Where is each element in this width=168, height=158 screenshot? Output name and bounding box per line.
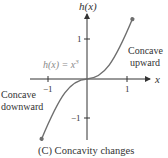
concavity-diagram: h(x) x 1 −1 −1 1 h(x) = x3 Concave upwar…: [0, 0, 168, 158]
concave-upward-line2: upward: [130, 57, 160, 68]
figure-caption: (C) Concavity changes: [38, 145, 134, 157]
y-tick-label-1: 1: [77, 34, 82, 44]
function-label: h(x) = x3: [43, 58, 79, 71]
y-axis-label: h(x): [79, 0, 97, 13]
y-tick-label-neg1: −1: [71, 113, 81, 123]
concave-downward-line1: Concave: [1, 89, 37, 100]
concave-downward-line2: downward: [1, 101, 43, 112]
x-tick-label-neg1: −1: [43, 84, 53, 94]
concave-upward-line1: Concave: [128, 45, 164, 56]
x-axis-label: x: [154, 73, 160, 85]
x-tick-label-1: 1: [125, 84, 130, 94]
